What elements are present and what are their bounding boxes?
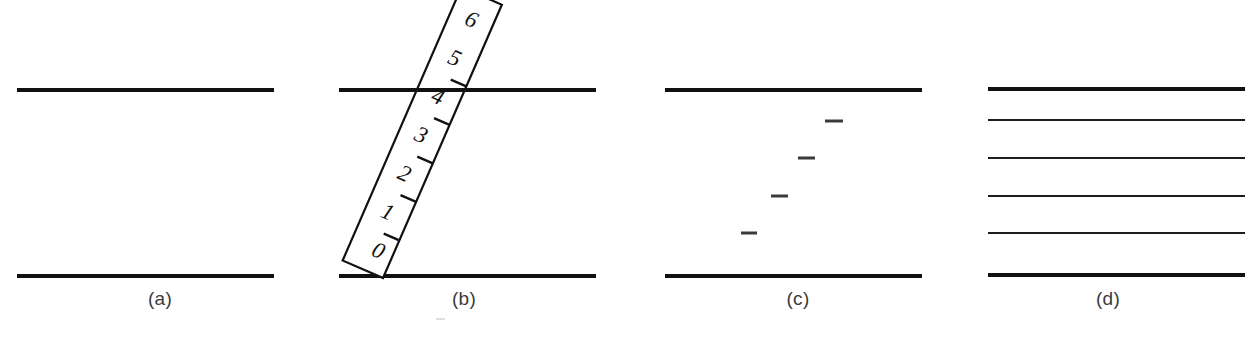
panel-a-caption: (a) (100, 288, 220, 310)
panel-c-caption: (c) (738, 288, 858, 310)
panel-b-caption: (b) (404, 288, 524, 310)
stray-artifact-mark (436, 318, 445, 320)
panel-d-caption: (d) (1048, 288, 1168, 310)
